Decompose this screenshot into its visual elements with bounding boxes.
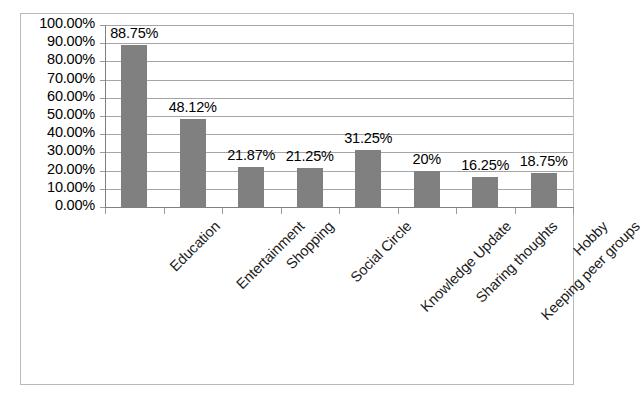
bar-value-label: 21.25%	[286, 149, 334, 164]
y-axis-tick-label: 20.00%	[47, 162, 95, 176]
bar-value-label: 31.25%	[344, 131, 392, 146]
bar-value-label: 21.87%	[227, 148, 275, 163]
bar[interactable]	[238, 167, 264, 207]
x-axis-category-label: Sharing thoughts	[472, 218, 560, 306]
bar-value-label: 48.12%	[169, 100, 217, 115]
bar[interactable]	[355, 150, 381, 207]
x-axis-tick-mark	[105, 208, 106, 214]
bar[interactable]	[297, 168, 323, 207]
x-axis-tick-mark	[339, 208, 340, 214]
x-axis-tick-mark	[398, 208, 399, 214]
y-axis-tick-label: 30.00%	[47, 143, 95, 157]
x-axis-tick-mark	[573, 208, 574, 214]
y-axis-tick-label: 80.00%	[47, 52, 95, 66]
bar[interactable]	[531, 173, 557, 207]
x-axis-tick-mark	[456, 208, 457, 214]
x-axis-tick-mark	[515, 208, 516, 214]
bar-value-label: 88.75%	[110, 26, 158, 41]
y-axis-tick-label: 70.00%	[47, 71, 95, 85]
chart-frame: 100.00%90.00%80.00%70.00%60.00%50.00%40.…	[20, 13, 574, 385]
y-axis-tick-label: 10.00%	[47, 180, 95, 194]
x-axis-tick-mark	[281, 208, 282, 214]
x-axis-category-label: Education	[167, 218, 223, 274]
y-axis-tick-label: 50.00%	[47, 107, 95, 121]
y-axis-tick-label: 60.00%	[47, 89, 95, 103]
bar[interactable]	[121, 45, 147, 207]
bar[interactable]	[472, 177, 498, 207]
x-axis-tick-mark	[222, 208, 223, 214]
bar-value-label: 20%	[413, 152, 441, 167]
y-axis-tick-label: 0.00%	[55, 198, 95, 212]
x-axis-category-label: Social Circle	[347, 218, 414, 285]
bar[interactable]	[414, 171, 440, 207]
plot-area	[105, 25, 573, 207]
y-axis-tick-label: 100.00%	[39, 16, 95, 30]
y-axis-tick-label: 90.00%	[47, 34, 95, 48]
bar-value-label: 18.75%	[520, 154, 568, 169]
bar-value-label: 16.25%	[461, 158, 509, 173]
x-axis-tick-mark	[164, 208, 165, 214]
y-axis-tick-label: 40.00%	[47, 125, 95, 139]
bar[interactable]	[180, 119, 206, 207]
